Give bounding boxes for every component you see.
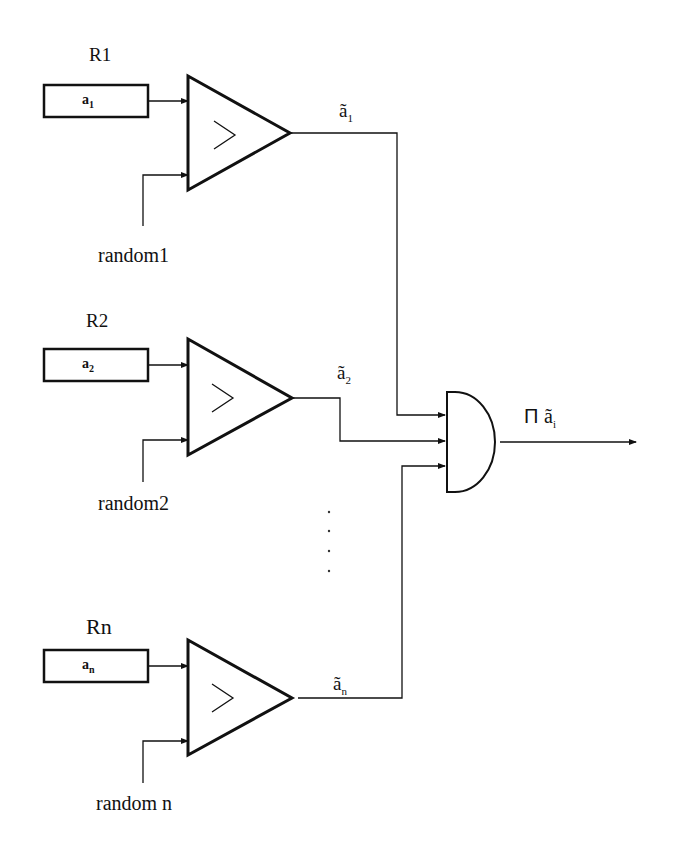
register-rn-name: Rn — [86, 614, 112, 640]
output-a2-sub: 2 — [345, 374, 351, 386]
comparator-n — [188, 640, 292, 755]
register-r2-value: a2 — [82, 356, 94, 374]
product-output-label: Π ãi — [524, 405, 556, 430]
comparator-1 — [188, 76, 290, 190]
register-rn-box — [44, 650, 148, 682]
ellipsis-dots — [328, 511, 330, 572]
random-n-label: random n — [96, 792, 172, 815]
circuit-diagram — [0, 0, 674, 844]
register-rn-var: a — [82, 657, 89, 672]
register-r2-var: a — [82, 356, 89, 371]
output-an-label: ãn — [333, 673, 347, 697]
random1-label: random1 — [98, 244, 169, 267]
comparator-2 — [188, 339, 292, 455]
product-symbol: Π — [524, 405, 538, 427]
output-a2-label: ã2 — [337, 362, 351, 386]
register-r1-var: a — [82, 92, 89, 107]
register-r1-value: a1 — [82, 92, 94, 110]
register-rn-sub: n — [89, 664, 95, 675]
output-a1-label: ã1 — [339, 100, 353, 124]
register-r1-sub: 1 — [89, 99, 94, 110]
comparator-1-symbol — [214, 121, 235, 149]
register-r2-name: R2 — [86, 310, 108, 332]
register-rn-value: an — [82, 657, 95, 675]
product-var: ã — [544, 405, 553, 427]
branch-2 — [44, 339, 445, 482]
output-an-sub: n — [341, 685, 347, 697]
register-r2-sub: 2 — [89, 363, 94, 374]
register-r1-name: R1 — [89, 44, 111, 66]
and-gate — [447, 392, 495, 492]
output-a1-sub: 1 — [347, 112, 353, 124]
register-r2-box — [44, 349, 148, 381]
random2-label: random2 — [98, 492, 169, 515]
comparator-n-symbol — [212, 684, 233, 712]
register-r1-box — [44, 85, 148, 117]
product-sub: i — [553, 418, 556, 430]
comparator-2-symbol — [212, 384, 233, 412]
